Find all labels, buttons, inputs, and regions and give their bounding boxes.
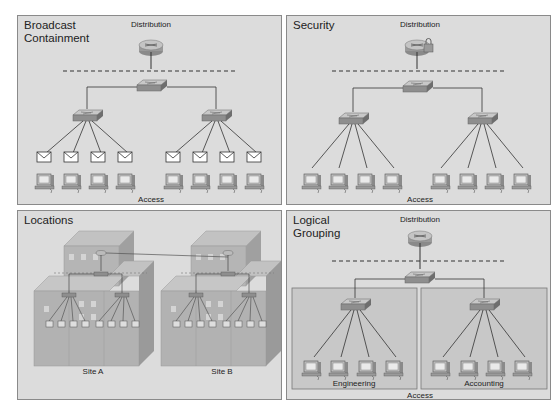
svg-text:Accounting: Accounting bbox=[464, 379, 504, 388]
svg-text:Access: Access bbox=[407, 391, 433, 400]
svg-text:Engineering: Engineering bbox=[333, 379, 376, 388]
panel-locations: Locations bbox=[17, 210, 282, 400]
panel-security: Security Distribution Access bbox=[286, 15, 551, 205]
lock-icon bbox=[424, 39, 433, 53]
svg-text:Site A: Site A bbox=[83, 367, 105, 376]
svg-text:Site B: Site B bbox=[211, 367, 232, 376]
locations-diagram: Site A Site B bbox=[18, 211, 283, 401]
svg-text:Distribution: Distribution bbox=[400, 215, 440, 224]
security-diagram: Distribution Access bbox=[287, 16, 552, 206]
svg-text:Distribution: Distribution bbox=[131, 20, 171, 29]
panel-logical-grouping: Logical Grouping Distribution Engineerin… bbox=[286, 210, 551, 400]
panel-broadcast-containment: Broadcast Containment bbox=[17, 15, 282, 205]
svg-text:Access: Access bbox=[407, 195, 433, 204]
logical-grouping-diagram: Distribution Engineering Accounting Acce… bbox=[287, 211, 552, 401]
svg-text:Distribution: Distribution bbox=[400, 20, 440, 29]
broadcast-diagram: Distribution Access bbox=[18, 16, 283, 206]
svg-text:Access: Access bbox=[138, 195, 164, 204]
